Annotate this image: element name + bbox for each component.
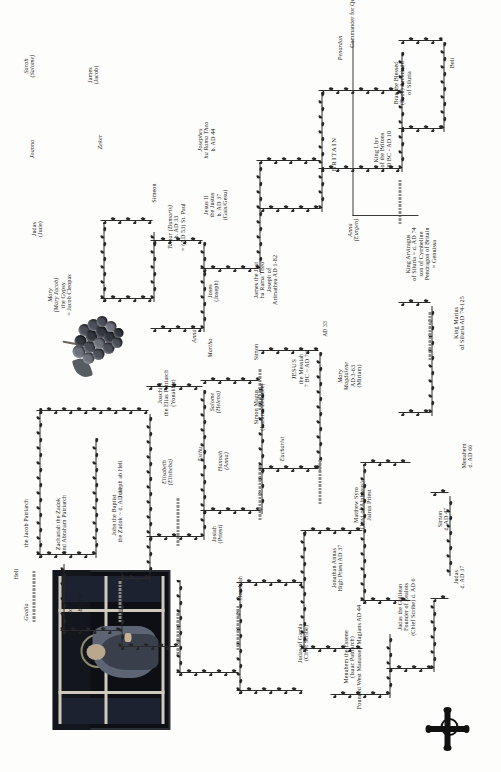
node-sahorra: = Sahorra (Sobrieth) xyxy=(76,586,82,656)
vine-connector xyxy=(318,87,400,94)
marriage-connector xyxy=(118,578,121,622)
node-jesus-ii: Jesus IIthe Justus b. AD 37(Gais/Gesu) xyxy=(202,180,228,230)
marriage-connector xyxy=(428,310,431,360)
node-heli: Heli xyxy=(12,554,18,594)
vine-connector xyxy=(36,407,148,414)
node-hezekiah: Hezekiah xyxy=(236,564,242,612)
node-king-llyr: King Llyrof the Britons20 BC - AD 10 xyxy=(372,118,391,182)
vine-connector xyxy=(256,157,320,164)
vine-connector xyxy=(100,222,107,302)
marriage-connector xyxy=(32,568,35,622)
cross-finial-left xyxy=(443,745,451,751)
node-anna-1: Anna xyxy=(190,318,196,354)
vine-connector xyxy=(440,42,447,132)
node-josephes: Josephesha Rama Theob. AD 44 xyxy=(196,112,215,168)
marriage-connector xyxy=(176,612,179,654)
vine-connector xyxy=(318,92,325,212)
node-gaalia: Gaalia xyxy=(22,590,28,634)
cross-finial-bottom xyxy=(463,725,469,733)
node-judas-jude: Judas(Jude) xyxy=(30,208,43,250)
node-jacob-patriarch: the Jacob Patriarch xyxy=(22,480,28,566)
node-josiah: Josiah(Priest) xyxy=(210,510,223,558)
node-eucharist: Eucharist xyxy=(278,426,284,472)
node-elisabeth: Elisabeth(Elisheba) xyxy=(160,444,173,500)
vine-connector xyxy=(146,533,202,540)
window-mullion-v1 xyxy=(58,691,164,694)
vine-connector xyxy=(100,217,152,224)
vine-connector xyxy=(258,205,320,212)
vine-connector xyxy=(360,459,410,466)
node-joses-joseph: Joses(Joseph) xyxy=(206,270,219,312)
node-commander-boudicca: Commander for Queen Boudicca xyxy=(348,0,354,76)
node-salome-helena: Salome(Helena) xyxy=(208,380,221,424)
vine-connector xyxy=(398,37,442,44)
node-joachim: Joachimthe Elias Patriarch(Yonakhir) xyxy=(156,350,175,436)
node-simon: Simon xyxy=(252,332,258,372)
vine-connector xyxy=(430,489,448,496)
node-judas-of-gamla: Judas of Gamla(Chief Scribe) xyxy=(296,610,309,676)
node-joseph-ab-heli: Joseph ab Heli xyxy=(116,446,122,512)
node-mary-magdalene: MaryMagdalene AD 3-63(Miriam) xyxy=(336,350,362,402)
node-bran-the-blessed: Bran the Blessed(Bron) Archdruidof Silur… xyxy=(392,46,411,120)
grape xyxy=(111,337,122,348)
marriage-connector xyxy=(398,176,401,224)
node-zeker: Zeker xyxy=(96,122,102,162)
vine-connector xyxy=(430,602,437,672)
node-menahem-the-essene: Menahem the Essene(Isaac Patriarch)Found… xyxy=(342,588,361,726)
marriage-connector xyxy=(258,462,261,520)
node-judas-d37: Judasd. AD 37 xyxy=(452,556,465,598)
vine-connector xyxy=(316,352,323,472)
vine-connector xyxy=(176,669,238,676)
node-judas-the-galilean: Judas the GalileanFounder of Zealots(Chi… xyxy=(396,562,415,652)
vine-connector xyxy=(118,575,148,582)
node-penardun: Penardun xyxy=(336,24,342,72)
node-ad33: AD 33 xyxy=(322,314,328,344)
cross-nimbus-ring xyxy=(440,718,458,736)
node-menahem-d66: Menahemd. AD 66 xyxy=(460,432,473,480)
marriage-connector xyxy=(318,456,321,504)
vine-connector xyxy=(200,507,260,514)
vine-connector xyxy=(100,295,152,302)
node-esthu: Esthu xyxy=(196,436,202,472)
node-tamar: Tamar (Damaris)b. AD 33= (AD 53) St. Pau… xyxy=(166,190,185,264)
window-mullion-v2 xyxy=(58,609,164,612)
cross-finial-right xyxy=(443,707,451,713)
node-king-marius: King Mariusof Siluria AD 74-125 xyxy=(452,278,465,368)
vine-connector xyxy=(398,125,442,132)
node-james-jacob: James(Jacob) xyxy=(86,54,99,96)
node-jonathan-annas: Jonathan AnnasHigh Priest AD 37 xyxy=(330,532,343,604)
vine-connector xyxy=(386,665,432,672)
node-martha: Martha xyxy=(206,328,212,368)
node-sarah-salome: Sarah(Salome) xyxy=(22,44,35,88)
node-joanna: Joanna xyxy=(28,128,34,170)
section-label-britain: BRITAIN xyxy=(330,126,337,182)
vine-connector xyxy=(398,299,430,306)
node-jesus: JESUSthe Messiah7 BC ~ AD 73 xyxy=(290,340,310,398)
node-simeon: Simeon xyxy=(150,170,156,216)
node-matthew-syro: Matthew Syro(Levi of Alphaeus)Jairus Pri… xyxy=(352,470,371,540)
vine-connector xyxy=(430,595,448,602)
node-simon-d47: Simond. AD 47 xyxy=(436,498,449,540)
figure-head xyxy=(86,644,105,660)
node-zachariah: Zachariah the Zadokand Abraham Patriarch xyxy=(54,472,67,576)
node-beli: Beli xyxy=(448,46,454,80)
node-king-arviragus: King Arviragusof Siluria ~ d. AD 74 son … xyxy=(404,212,436,296)
node-james-the-just: James the Justha Rama Theo Joseph ofArim… xyxy=(252,242,278,318)
vine-connector xyxy=(36,408,43,558)
window-panel-left xyxy=(60,698,160,724)
node-mary-the-gypsy: Mary(Mary Jacob) the Gypsy= Jacob Cleopa… xyxy=(46,258,72,332)
vine-connector xyxy=(236,579,302,586)
genealogy-chart-canvas: Heli Gaalia the Jacob Patriarch Matthat … xyxy=(0,0,501,772)
vine-connector xyxy=(258,465,318,472)
cross-finial-top xyxy=(425,725,431,733)
node-matthat-zadok: Matthat Zadok xyxy=(66,590,72,656)
celtic-cross-icon xyxy=(424,706,470,752)
vine-connector xyxy=(92,438,99,558)
marriage-connector xyxy=(176,494,179,546)
vine-connector xyxy=(236,687,302,694)
node-hannah: Hannah(Anna) xyxy=(216,438,229,484)
node-simon-magus: Simon Magus(Lazarus/Zebedee) xyxy=(252,370,265,444)
node-anna-2: Anna(Eurgen) xyxy=(346,208,359,252)
window-mullion-bottom xyxy=(161,576,164,724)
vine-connector xyxy=(118,643,178,650)
